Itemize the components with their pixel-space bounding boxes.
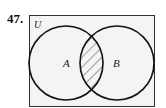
set-b-label: B xyxy=(113,57,120,69)
universe-label: U xyxy=(34,19,42,30)
set-a-label: A xyxy=(62,57,70,69)
venn-diagram: U A B xyxy=(0,0,166,108)
